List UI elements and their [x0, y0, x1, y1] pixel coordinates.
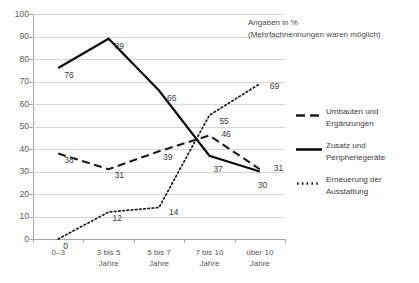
y-tick-label: 70 [3, 77, 29, 86]
y-tick-mark [29, 82, 33, 83]
x-axis-line [33, 239, 285, 240]
chart-legend: Umbauten undErgänzungenZusatz undPeriphe… [296, 106, 419, 209]
x-tick-mark [134, 239, 135, 243]
y-tick-mark [29, 239, 33, 240]
y-tick-label: 50 [3, 122, 29, 131]
annotation-line-1: Angaben in % [248, 17, 381, 29]
x-tick-mark [235, 239, 236, 243]
x-tick-label-line-1: über 10 [230, 248, 290, 259]
y-tick-mark [29, 14, 33, 15]
data-point-label: 69 [270, 82, 279, 91]
legend-label-line-1: Umbauten und [326, 106, 378, 118]
data-point-label: 30 [258, 181, 267, 190]
y-tick-label: 20 [3, 190, 29, 199]
legend-item[interactable]: Umbauten undErgänzungen [296, 106, 419, 129]
data-point-label: 12 [113, 214, 122, 223]
solid-line-icon [296, 141, 322, 152]
legend-label-line-1: Zusatz und [326, 140, 385, 152]
line-chart: 1009080706050403020100 38313946317689663… [0, 0, 419, 283]
x-tick-label-line-2: Jahre [230, 259, 290, 270]
x-tick-mark [285, 239, 286, 243]
y-tick-label: 60 [3, 100, 29, 109]
series-layer [33, 14, 285, 239]
y-tick-label: 10 [3, 212, 29, 221]
data-point-label: 76 [64, 71, 73, 80]
data-point-label: 66 [167, 94, 176, 103]
legend-label-line-1: Erneuerung der [326, 174, 382, 186]
data-point-label: 55 [219, 117, 228, 126]
y-tick-mark [29, 194, 33, 195]
data-point-label: 39 [163, 153, 172, 162]
y-tick-mark [29, 149, 33, 150]
y-tick-label: 30 [3, 167, 29, 176]
legend-item-label: Umbauten undErgänzungen [326, 106, 378, 129]
dotted-line-icon [296, 175, 322, 186]
y-tick-mark [29, 37, 33, 38]
x-tick-mark [33, 239, 34, 243]
y-tick-mark [29, 59, 33, 60]
y-tick-mark [29, 127, 33, 128]
x-tick-mark [184, 239, 185, 243]
legend-label-line-2: Ausstattung [326, 186, 382, 198]
annotation-line-2: (Mehrfachnennungen waren möglich) [248, 29, 381, 41]
y-tick-label: 80 [3, 55, 29, 64]
data-point-label: 31 [274, 164, 283, 173]
y-tick-label: 0 [3, 235, 29, 244]
data-point-label: 38 [64, 156, 73, 165]
y-axis-labels: 1009080706050403020100 [0, 0, 29, 283]
y-tick-label: 100 [3, 10, 29, 19]
data-point-label: 46 [221, 130, 230, 139]
data-point-label: 89 [115, 42, 124, 51]
legend-item-label: Zusatz undPeripheriegeräte [326, 140, 385, 163]
y-tick-mark [29, 217, 33, 218]
legend-item[interactable]: Zusatz undPeripheriegeräte [296, 140, 419, 163]
y-tick-mark [29, 104, 33, 105]
y-tick-label: 90 [3, 32, 29, 41]
legend-item[interactable]: Erneuerung derAusstattung [296, 174, 419, 197]
x-tick-mark [83, 239, 84, 243]
x-tick-label: über 10Jahre [230, 248, 290, 270]
plot-area: 38313946317689663730012145569 [33, 14, 285, 239]
legend-label-line-2: Peripheriegeräte [326, 152, 385, 164]
data-point-label: 37 [213, 165, 222, 174]
y-tick-label: 40 [3, 145, 29, 154]
y-tick-mark [29, 172, 33, 173]
legend-label-line-2: Ergänzungen [326, 118, 378, 130]
data-point-label: 14 [169, 208, 178, 217]
data-point-label: 31 [115, 171, 124, 180]
series-line-umbauten-und-ergaenzungen [58, 136, 260, 170]
dashed-line-icon [296, 107, 322, 118]
legend-item-label: Erneuerung derAusstattung [326, 174, 382, 197]
chart-annotation: Angaben in % (Mehrfachnennungen waren mö… [248, 17, 381, 41]
